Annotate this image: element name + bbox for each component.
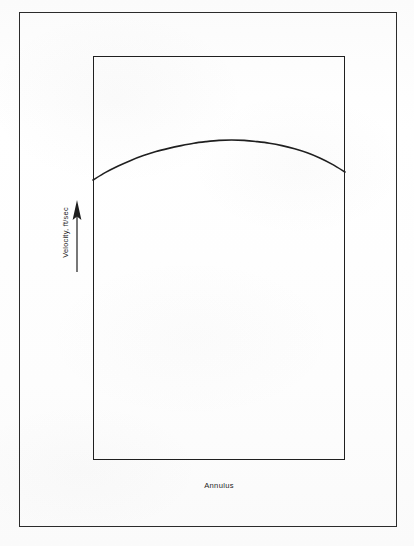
y-axis-label: Velocity, ft/sec [61,200,70,266]
figure-page: Velocity, ft/sec Annulus [0,0,414,546]
x-axis-label: Annulus [93,481,345,490]
y-axis-group: Velocity, ft/sec [40,200,88,284]
velocity-profile-path [93,140,345,180]
up-arrow-icon [70,200,84,272]
velocity-profile-curve [93,56,345,460]
